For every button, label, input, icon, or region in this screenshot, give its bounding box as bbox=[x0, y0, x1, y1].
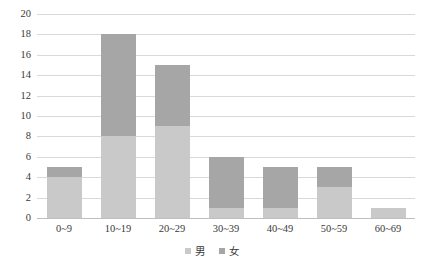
y-tick-label: 2 bbox=[1, 192, 31, 203]
x-tick-label: 30~39 bbox=[199, 222, 253, 236]
x-tick-label: 60~69 bbox=[361, 222, 415, 236]
y-tick-label: 6 bbox=[1, 152, 31, 163]
x-tick-label: 10~19 bbox=[91, 222, 145, 236]
y-tick-label: 4 bbox=[1, 172, 31, 183]
y-tick-label: 8 bbox=[1, 131, 31, 142]
y-tick-label: 0 bbox=[1, 213, 31, 224]
y-tick-label: 10 bbox=[1, 111, 31, 122]
bar-segment[interactable] bbox=[209, 208, 244, 218]
bar-segment[interactable] bbox=[263, 167, 298, 208]
legend-item[interactable]: 男 bbox=[185, 246, 205, 257]
bar-group[interactable] bbox=[263, 14, 298, 218]
legend-swatch-icon bbox=[185, 248, 191, 254]
bar-group[interactable] bbox=[317, 14, 352, 218]
bar-segment[interactable] bbox=[209, 157, 244, 208]
bar-segment[interactable] bbox=[101, 34, 136, 136]
chart-legend: 男女 bbox=[0, 246, 424, 257]
legend-label: 女 bbox=[229, 246, 239, 257]
x-tick-label: 40~49 bbox=[253, 222, 307, 236]
bar-segment[interactable] bbox=[155, 126, 190, 218]
plot-area bbox=[37, 14, 415, 218]
y-tick-label: 20 bbox=[1, 9, 31, 20]
legend-swatch-icon bbox=[219, 248, 225, 254]
bar-segment[interactable] bbox=[317, 167, 352, 187]
legend-label: 男 bbox=[195, 246, 205, 257]
y-tick-label: 14 bbox=[1, 70, 31, 81]
bar-segment[interactable] bbox=[101, 136, 136, 218]
bar-group[interactable] bbox=[209, 14, 244, 218]
gridline-0 bbox=[37, 218, 415, 219]
bar-segment[interactable] bbox=[263, 208, 298, 218]
bar-group[interactable] bbox=[101, 14, 136, 218]
x-tick-label: 20~29 bbox=[145, 222, 199, 236]
bar-group[interactable] bbox=[47, 14, 82, 218]
bars-layer bbox=[37, 14, 415, 218]
y-tick-label: 16 bbox=[1, 50, 31, 61]
stacked-bar-chart: 02468101214161820 0~910~1920~2930~3940~4… bbox=[0, 0, 424, 269]
bar-group[interactable] bbox=[371, 14, 406, 218]
bar-segment[interactable] bbox=[371, 208, 406, 218]
x-axis: 0~910~1920~2930~3940~4950~5960~69 bbox=[37, 222, 415, 238]
y-tick-label: 18 bbox=[1, 29, 31, 40]
bar-segment[interactable] bbox=[47, 167, 82, 177]
bar-segment[interactable] bbox=[47, 177, 82, 218]
y-tick-label: 12 bbox=[1, 90, 31, 101]
x-tick-label: 50~59 bbox=[307, 222, 361, 236]
bar-segment[interactable] bbox=[317, 187, 352, 218]
bar-segment[interactable] bbox=[155, 65, 190, 126]
legend-item[interactable]: 女 bbox=[219, 246, 239, 257]
bar-group[interactable] bbox=[155, 14, 190, 218]
x-tick-label: 0~9 bbox=[37, 222, 91, 236]
